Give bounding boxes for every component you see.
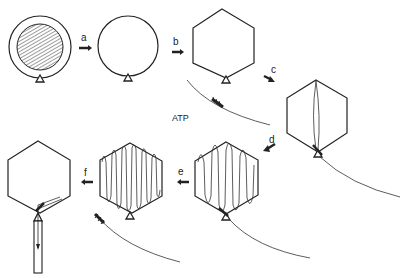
capsid-shell xyxy=(98,16,158,76)
terminase-motor-icon xyxy=(95,214,104,224)
step-label-e: e xyxy=(178,166,184,177)
dna-strand-tail xyxy=(229,219,310,258)
dna-strand xyxy=(187,80,270,125)
step-label-b: b xyxy=(173,36,179,47)
dna-strand-tail xyxy=(320,157,400,197)
step-arrow-c: c xyxy=(264,64,276,82)
step-label-c: c xyxy=(271,64,276,75)
hexagonal-capsid xyxy=(193,9,254,78)
hexagonal-capsid xyxy=(8,141,70,213)
stage-partially-filled xyxy=(195,142,310,258)
scaffold-core xyxy=(17,24,63,70)
portal-icon xyxy=(36,75,44,82)
dna-strand xyxy=(314,81,317,150)
portal-icon xyxy=(124,74,132,81)
step-arrow-e: e xyxy=(177,166,189,185)
step-arrow-f: f xyxy=(81,167,93,185)
released-terminase xyxy=(95,214,180,262)
dna-strand xyxy=(99,218,180,262)
stage-expanded-capsid xyxy=(187,9,270,125)
step-label-a: a xyxy=(81,32,87,43)
stage-dna-entering xyxy=(287,80,400,197)
diagram-canvas: a b ATP c d xyxy=(0,0,407,278)
stage-mature-phage xyxy=(8,141,70,273)
stage-procapsid-with-scaffold xyxy=(9,16,71,82)
step-arrow-d: d xyxy=(263,134,275,152)
atp-label: ATP xyxy=(172,113,189,123)
stage-full-capsid xyxy=(100,143,162,219)
step-arrow-b: b xyxy=(172,36,184,55)
step-label-f: f xyxy=(84,167,87,178)
step-arrow-a: a xyxy=(79,32,92,51)
stage-empty-procapsid xyxy=(98,16,158,81)
